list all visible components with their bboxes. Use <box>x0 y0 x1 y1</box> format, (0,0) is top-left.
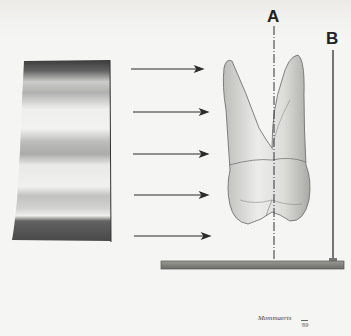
film-panel <box>12 60 111 242</box>
label-a: A <box>267 8 279 25</box>
base-plate <box>161 261 344 269</box>
label-b: B <box>326 30 338 47</box>
projection-arrows <box>131 66 210 239</box>
diagram-canvas: A B Mommaerts '69 <box>0 0 351 336</box>
tooth-illustration <box>223 55 310 224</box>
signature-year: '69 <box>301 320 308 328</box>
artist-signature: Mommaerts <box>258 314 291 322</box>
rod-b <box>329 50 337 263</box>
diagram-drawing <box>0 0 351 336</box>
